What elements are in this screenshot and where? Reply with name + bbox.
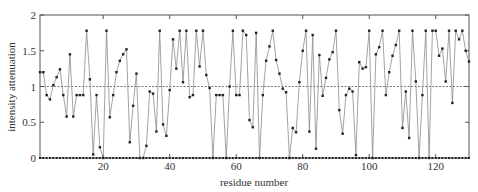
baseline-marker bbox=[408, 157, 410, 159]
data-point bbox=[282, 87, 284, 89]
data-point bbox=[335, 30, 337, 32]
data-point bbox=[119, 60, 121, 62]
data-point bbox=[255, 32, 257, 34]
baseline-marker bbox=[135, 157, 137, 159]
data-point bbox=[215, 94, 217, 96]
data-point bbox=[222, 94, 224, 96]
data-point bbox=[265, 60, 267, 62]
data-point bbox=[464, 50, 466, 52]
baseline-marker bbox=[145, 157, 147, 159]
data-point bbox=[198, 65, 200, 67]
data-point bbox=[415, 80, 417, 82]
baseline-marker bbox=[445, 157, 447, 159]
data-point bbox=[288, 157, 290, 159]
data-point bbox=[89, 78, 91, 80]
data-point bbox=[361, 67, 363, 69]
data-point bbox=[129, 141, 131, 143]
data-point bbox=[79, 94, 81, 96]
baseline-marker bbox=[332, 157, 334, 159]
baseline-marker bbox=[59, 157, 61, 159]
baseline-marker bbox=[195, 157, 197, 159]
baseline-marker bbox=[405, 157, 407, 159]
baseline-marker bbox=[39, 157, 41, 159]
baseline-marker bbox=[448, 157, 450, 159]
data-point bbox=[185, 30, 187, 32]
data-point bbox=[388, 71, 390, 73]
data-point bbox=[142, 157, 144, 159]
baseline-marker bbox=[401, 157, 403, 159]
data-point bbox=[331, 51, 333, 53]
baseline-marker bbox=[125, 157, 127, 159]
baseline-marker bbox=[318, 157, 320, 159]
y-tick-label: 0.5 bbox=[22, 116, 36, 128]
data-point bbox=[425, 30, 427, 32]
baseline-marker bbox=[252, 157, 254, 159]
data-point bbox=[448, 30, 450, 32]
baseline-marker bbox=[229, 157, 231, 159]
data-point bbox=[278, 72, 280, 74]
data-point bbox=[421, 94, 423, 96]
data-point bbox=[192, 94, 194, 96]
data-point bbox=[315, 148, 317, 150]
x-tick-label: 20 bbox=[98, 160, 110, 172]
x-tick-label: 100 bbox=[361, 160, 378, 172]
baseline-marker bbox=[169, 157, 171, 159]
data-point bbox=[308, 130, 310, 132]
data-point bbox=[52, 84, 54, 86]
data-point bbox=[42, 71, 44, 73]
baseline-marker bbox=[335, 157, 337, 159]
baseline-marker bbox=[362, 157, 364, 159]
data-point bbox=[109, 116, 111, 118]
baseline-marker bbox=[189, 157, 191, 159]
data-point bbox=[391, 55, 393, 57]
data-point bbox=[441, 47, 443, 49]
baseline-marker bbox=[355, 157, 357, 159]
data-point bbox=[295, 131, 297, 133]
data-point bbox=[411, 30, 413, 32]
baseline-marker bbox=[185, 157, 187, 159]
data-point bbox=[252, 126, 254, 128]
baseline-marker bbox=[119, 157, 121, 159]
attenuation-chart: 00.511.52 20406080100120 residue number … bbox=[0, 0, 478, 192]
data-point bbox=[188, 96, 190, 98]
data-point bbox=[454, 30, 456, 32]
baseline-marker bbox=[275, 157, 277, 159]
baseline-marker bbox=[69, 157, 71, 159]
data-point bbox=[245, 34, 247, 36]
data-point bbox=[458, 38, 460, 40]
baseline-marker bbox=[219, 157, 221, 159]
data-point bbox=[292, 127, 294, 129]
baseline-marker bbox=[278, 157, 280, 159]
data-point bbox=[145, 145, 147, 147]
data-point bbox=[272, 30, 274, 32]
data-point bbox=[371, 157, 373, 159]
baseline-marker bbox=[179, 157, 181, 159]
baseline-marker bbox=[458, 157, 460, 159]
baseline-marker bbox=[378, 157, 380, 159]
data-point bbox=[139, 157, 141, 159]
baseline-marker bbox=[159, 157, 161, 159]
data-point bbox=[65, 115, 67, 117]
baseline-marker bbox=[52, 157, 54, 159]
data-point bbox=[358, 61, 360, 63]
data-point bbox=[135, 72, 137, 74]
y-tick-label: 1.5 bbox=[22, 45, 36, 57]
baseline-marker bbox=[368, 157, 370, 159]
baseline-marker bbox=[172, 157, 174, 159]
data-point bbox=[468, 60, 470, 62]
data-point bbox=[298, 81, 300, 83]
data-point bbox=[102, 157, 104, 159]
baseline-marker bbox=[232, 157, 234, 159]
baseline-marker bbox=[209, 157, 211, 159]
data-point bbox=[242, 30, 244, 32]
y-axis-label: intensity attenuation bbox=[5, 42, 17, 132]
data-point bbox=[228, 85, 230, 87]
data-point bbox=[168, 89, 170, 91]
baseline-marker bbox=[205, 157, 207, 159]
baseline-marker bbox=[245, 157, 247, 159]
data-point bbox=[159, 30, 161, 32]
data-point bbox=[318, 54, 320, 56]
baseline-marker bbox=[89, 157, 91, 159]
data-point bbox=[212, 157, 214, 159]
data-point bbox=[202, 30, 204, 32]
